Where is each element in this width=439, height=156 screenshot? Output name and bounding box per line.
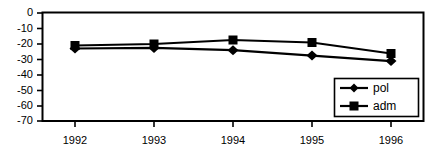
x-tick-label-1996: 1996: [369, 135, 413, 146]
y-tick-label-7: -70: [3, 115, 33, 126]
x-tick-label-1994: 1994: [211, 135, 255, 146]
y-tick-label-4: -40: [3, 69, 33, 80]
legend-label-pol: pol: [373, 82, 389, 94]
y-tick-label-0: 0: [3, 7, 33, 18]
chart-canvas: [0, 0, 439, 156]
x-tick-label-1992: 1992: [53, 135, 97, 146]
line-chart: 0 -10 -20 -30 -40 -50 -60 -70 1992 1993 …: [0, 0, 439, 156]
y-tick-label-6: -60: [3, 100, 33, 111]
legend-label-adm: adm: [373, 100, 396, 112]
y-tick-label-1: -10: [3, 23, 33, 34]
x-tick-label-1995: 1995: [290, 135, 334, 146]
x-tick-label-1993: 1993: [132, 135, 176, 146]
y-tick-label-2: -20: [3, 38, 33, 49]
y-tick-label-3: -30: [3, 54, 33, 65]
y-tick-label-5: -50: [3, 85, 33, 96]
